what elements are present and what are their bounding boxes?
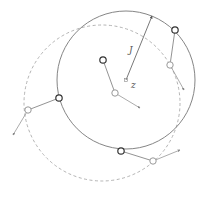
velocity-arrow <box>115 93 140 108</box>
point-pair-3 <box>13 95 62 135</box>
light-point <box>167 62 173 68</box>
point-pair-4 <box>118 148 180 164</box>
center-label: z <box>130 80 136 90</box>
dashed-circle <box>24 25 180 181</box>
dark-point <box>118 148 124 154</box>
diagram-canvas: J z <box>0 0 204 197</box>
displacement-label: J <box>127 45 134 55</box>
dark-point <box>100 57 106 63</box>
light-point <box>25 107 31 113</box>
dark-point <box>172 27 178 33</box>
dark-point <box>56 95 62 101</box>
velocity-arrow <box>13 110 28 135</box>
velocity-arrow <box>153 150 180 161</box>
velocity-arrow <box>170 65 184 90</box>
light-point <box>112 90 118 96</box>
point-pair-2 <box>167 27 184 90</box>
light-point <box>150 158 156 164</box>
